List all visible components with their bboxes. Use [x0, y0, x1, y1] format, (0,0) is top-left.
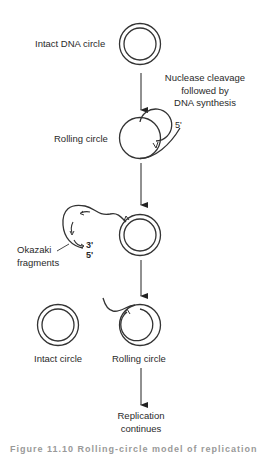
intact-circle-shape [38, 305, 79, 346]
label-five-prime-1: 5' [175, 119, 182, 132]
label-replication-continues: Replication continues [101, 410, 181, 435]
label-intact-dna-circle: Intact DNA circle [35, 38, 105, 51]
label-intact-circle: Intact circle [34, 353, 82, 366]
label-nuclease-line-2: followed by [160, 85, 250, 98]
label-nuclease-step: Nuclease cleavage followed by DNA synthe… [160, 72, 250, 110]
label-replication-line-2: continues [101, 423, 181, 436]
label-rolling-circle-2: Rolling circle [112, 353, 166, 366]
label-replication-line-1: Replication [101, 410, 181, 423]
label-nuclease-line-1: Nuclease cleavage [160, 72, 250, 85]
label-nuclease-line-3: DNA synthesis [160, 97, 250, 110]
rolling-circle-2-shape [103, 298, 161, 346]
intact-dna-circle-shape [120, 24, 161, 65]
label-okazaki-line-1: Okazaki [17, 244, 59, 257]
label-okazaki-line-2: fragments [17, 257, 59, 270]
label-okazaki-fragments: Okazaki fragments [17, 244, 59, 269]
okazaki-stage-shape [57, 205, 161, 255]
rolling-circle-1-shape [120, 109, 181, 158]
label-five-prime-2: 5' [86, 249, 93, 262]
label-rolling-circle-1: Rolling circle [54, 133, 108, 146]
figure-caption: Figure 11.10 Rolling-circle model of rep… [10, 444, 258, 454]
